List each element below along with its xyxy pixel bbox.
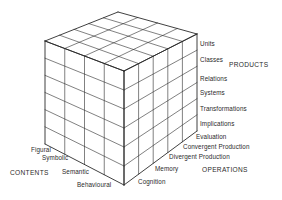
operation-label-divergent-production: Divergent Production xyxy=(169,154,230,160)
content-label-symbolic: Symbolic xyxy=(42,155,68,161)
content-label-figural: Figural xyxy=(31,147,51,153)
operation-label-memory: Memory xyxy=(155,166,178,172)
content-label-semantic: Semantic xyxy=(62,169,89,175)
soi-cube-diagram: Units Classes Relations Systems Transfor… xyxy=(0,0,282,200)
product-label-systems: Systems xyxy=(200,90,225,96)
product-label-units: Units xyxy=(200,41,215,47)
contents-axis-title: CONTENTS xyxy=(10,170,49,177)
content-label-behavioural: Behavioural xyxy=(77,182,111,188)
operation-label-convergent-production: Convergent Production xyxy=(183,144,250,150)
product-label-classes: Classes xyxy=(200,57,223,63)
operation-label-evaluation: Evaluation xyxy=(196,134,226,140)
operations-axis-title: OPERATIONS xyxy=(202,167,248,174)
product-label-relations: Relations xyxy=(200,76,227,82)
product-label-transformations: Transformations xyxy=(200,106,247,112)
operation-label-cognition: Cognition xyxy=(138,179,166,185)
products-axis-title: PRODUCTS xyxy=(229,62,268,69)
product-label-implications: Implications xyxy=(200,121,234,127)
